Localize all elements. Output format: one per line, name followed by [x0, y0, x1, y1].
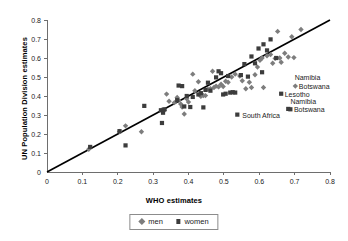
data-point-women	[160, 121, 164, 125]
data-point-women	[199, 91, 203, 95]
data-point-women	[117, 129, 121, 133]
data-point-men	[210, 69, 215, 74]
data-point-women	[185, 94, 189, 98]
y-tick-label: 0.5	[31, 74, 41, 81]
data-point-men	[286, 54, 291, 59]
data-point-women	[242, 62, 246, 66]
y-tick-label: 0	[37, 169, 41, 176]
data-point-men	[164, 91, 169, 96]
data-point-men	[293, 83, 298, 88]
data-point-women	[274, 56, 278, 60]
data-point-men	[270, 61, 275, 66]
data-point-women	[260, 70, 264, 74]
data-point-women	[253, 61, 257, 65]
square-icon	[176, 219, 181, 224]
data-point-women	[175, 98, 179, 102]
data-point-men	[249, 85, 254, 90]
annotation-label: Namibia	[290, 98, 316, 105]
annotation-label: Namibia	[295, 74, 321, 81]
annotation-label: Lesotho	[285, 91, 310, 98]
legend-item-women: women	[176, 217, 209, 226]
scatter-chart-figure: 00.10.20.30.40.50.60.70.8 00.10.20.30.40…	[0, 0, 348, 241]
data-point-women	[256, 46, 260, 50]
data-point-men	[282, 51, 287, 56]
y-tick-label: 0.7	[31, 36, 41, 43]
data-point-women	[162, 107, 166, 111]
data-point-men	[247, 80, 252, 85]
data-point-men	[278, 59, 283, 64]
x-tick-label: 0.2	[113, 178, 123, 185]
legend-label-women: women	[184, 217, 208, 226]
data-point-women	[191, 95, 195, 99]
legend-item-men: men	[139, 217, 163, 226]
data-point-men	[243, 86, 248, 91]
y-tick-label: 0.3	[31, 112, 41, 119]
legend-label-men: men	[148, 217, 163, 226]
data-point-women	[219, 71, 223, 75]
data-point-women	[288, 107, 292, 111]
data-point-women	[233, 90, 237, 94]
data-point-women	[182, 104, 186, 108]
y-tick-label: 0.1	[31, 150, 41, 157]
data-point-men	[275, 29, 280, 34]
x-tick-label: 0.1	[78, 178, 88, 185]
x-tick-label: 0.3	[148, 178, 158, 185]
series-women-points	[88, 37, 292, 149]
data-point-women	[261, 42, 265, 46]
data-point-women	[268, 37, 272, 41]
data-point-women	[239, 73, 243, 77]
chart-legend: men women	[129, 214, 218, 230]
y-axis-title: UN Population Division estimates	[20, 19, 29, 179]
annotation-label: Botswana	[294, 106, 325, 113]
y-tick-group: 00.10.20.30.40.50.60.70.8	[31, 17, 47, 176]
y-tick-label: 0.8	[31, 17, 41, 24]
data-point-men	[182, 111, 187, 116]
x-tick-label: 0	[45, 178, 49, 185]
x-tick-label: 0.4	[184, 178, 194, 185]
data-point-women	[180, 84, 184, 88]
data-point-women	[235, 113, 239, 117]
data-point-women	[224, 92, 228, 96]
data-point-men	[123, 123, 128, 128]
data-point-women	[203, 88, 207, 92]
data-point-men	[196, 79, 201, 84]
data-point-men	[139, 129, 144, 134]
annotation-label: Botswana	[299, 83, 330, 90]
data-point-women	[265, 48, 269, 52]
annotation-label: South Africa	[242, 112, 280, 119]
data-point-men	[298, 27, 303, 32]
y-tick-label: 0.6	[31, 55, 41, 62]
data-point-women	[201, 105, 205, 109]
data-point-women	[208, 89, 212, 93]
data-point-women	[123, 143, 127, 147]
y-tick-label: 0.4	[31, 93, 41, 100]
data-point-women	[246, 75, 250, 79]
data-point-women	[142, 104, 146, 108]
data-point-women	[206, 81, 210, 85]
diamond-icon	[138, 218, 145, 225]
data-point-men	[190, 71, 195, 76]
y-tick-label: 0.2	[31, 131, 41, 138]
data-point-men	[240, 78, 245, 83]
data-point-women	[188, 105, 192, 109]
x-axis-title: WHO estimates	[0, 196, 348, 205]
data-point-women	[226, 74, 230, 78]
annotation-group: NamibiaBotswanaLesothoNamibiaBotswanaSou…	[242, 74, 329, 119]
x-tick-group: 00.10.20.30.40.50.60.70.8	[45, 172, 335, 185]
x-tick-label: 0.8	[325, 178, 335, 185]
x-tick-label: 0.5	[219, 178, 229, 185]
data-point-women	[279, 92, 283, 96]
data-point-men	[261, 85, 266, 90]
data-point-women	[249, 54, 253, 58]
x-tick-label: 0.6	[254, 178, 264, 185]
data-point-men	[252, 72, 257, 77]
data-point-women	[88, 145, 92, 149]
data-point-men	[291, 55, 296, 60]
data-point-men	[166, 99, 171, 104]
x-tick-label: 0.7	[290, 178, 300, 185]
data-point-women	[214, 75, 218, 79]
